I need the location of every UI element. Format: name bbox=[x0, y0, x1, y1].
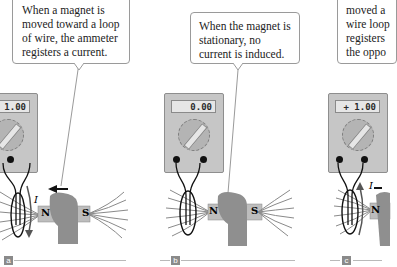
panel-label-a: a bbox=[4, 256, 13, 265]
panel-rule-b-left bbox=[160, 260, 170, 261]
panel-label-c: c bbox=[342, 256, 351, 265]
panel-c: moved awire loopregistersthe oppo + 1.00… bbox=[300, 0, 382, 267]
magnet-north-b: N bbox=[209, 205, 218, 216]
current-label-a: I bbox=[34, 194, 38, 205]
magnet-scene-c bbox=[300, 0, 382, 267]
magnet-north-a: N bbox=[41, 207, 50, 218]
magnet-south-a: S bbox=[82, 207, 89, 218]
magnet-north-c: N bbox=[371, 204, 380, 215]
current-label-c: I bbox=[369, 180, 373, 191]
panel-a: When a magnet is moved toward a loop of … bbox=[0, 0, 130, 267]
panel-rule-c bbox=[353, 260, 382, 261]
panel-label-b: b bbox=[171, 256, 180, 265]
magnet-south-b: S bbox=[251, 205, 258, 216]
magnet-scene-b bbox=[150, 0, 300, 267]
panel-rule-a bbox=[14, 260, 126, 261]
magnet-scene-a bbox=[0, 0, 130, 267]
panel-rule-c-left bbox=[330, 260, 340, 261]
panel-rule-b bbox=[181, 260, 295, 261]
panel-b: When the magnet is stationary, no curren… bbox=[150, 0, 300, 267]
